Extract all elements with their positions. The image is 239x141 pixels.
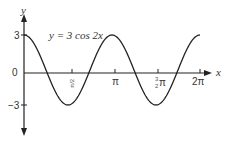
x-axis-label: x [215, 66, 221, 78]
equation-label: y = 3 cos 2x [48, 29, 103, 41]
cosine-curve [24, 35, 200, 105]
cosine-graph: y x 3 0 −3 π/2 π 3 2 π 2π y = 3 cos 2x [0, 0, 239, 141]
y-tick-label-neg3: −3 [8, 100, 20, 111]
y-axis-arrow-down-icon [21, 128, 27, 136]
x-tick-label-pi: π [112, 76, 119, 87]
y-tick-label-0: 0 [12, 67, 18, 78]
y-axis-label: y [20, 4, 26, 16]
x-axis-arrow-icon [204, 70, 212, 76]
x-tick-label-2pi: 2π [192, 76, 205, 87]
x-tick-label-3pi-half-pi: π [159, 77, 166, 88]
y-tick-label-3: 3 [14, 30, 20, 41]
x-tick-label-pi-half: π/2 [69, 78, 75, 88]
